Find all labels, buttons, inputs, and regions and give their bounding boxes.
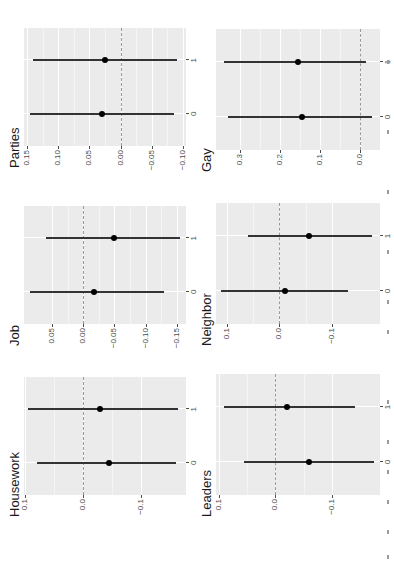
facet-title: Gay [200, 148, 214, 172]
y-tick-label: −0.05 [148, 150, 156, 180]
facet-job: Job0.050.00−0.05−0.10−0.1501 [8, 203, 200, 350]
y-tick-label: 0.3 [236, 154, 244, 184]
point-estimate-1 [102, 57, 108, 63]
minor-gridline [260, 29, 261, 150]
y-tick-mark [279, 324, 280, 327]
minor-gridline [306, 203, 307, 324]
y-tick-label: 0.0 [275, 328, 283, 358]
major-gridline [114, 206, 115, 324]
point-estimate-0 [306, 459, 312, 465]
facet-title: Neighbor [200, 293, 214, 346]
major-gridline [280, 29, 281, 150]
major-gridline [152, 28, 153, 146]
y-tick-mark [183, 146, 184, 149]
major-gridline [177, 206, 178, 324]
y-tick-label: −0.10 [142, 328, 150, 358]
point-estimate-0 [299, 114, 305, 120]
major-gridline [227, 203, 228, 324]
facet-gay: Gay0.30.20.10.001 [200, 26, 394, 176]
plot-panel [24, 377, 186, 495]
facet-title: Job [8, 325, 22, 346]
minor-gridline [105, 28, 106, 146]
caption-text-fragment [387, 330, 389, 334]
y-tick-label: 0.15 [23, 150, 31, 180]
zero-reference-line [275, 374, 276, 495]
x-tick-label: 1 [190, 233, 198, 243]
y-tick-mark [360, 150, 361, 153]
major-gridline [332, 203, 333, 324]
minor-gridline [253, 203, 254, 324]
y-tick-label: 0.0 [271, 499, 279, 529]
major-gridline [240, 29, 241, 150]
y-tick-label: −0.15 [173, 328, 181, 358]
y-tick-label: 0.05 [85, 150, 93, 180]
point-estimate-0 [99, 111, 105, 117]
caption-text-fragment [387, 440, 389, 444]
facet-inner: Neighbor0.10.0−0.101 [200, 200, 394, 350]
plot-panel [216, 29, 380, 150]
y-tick-label: 0.10 [54, 150, 62, 180]
y-tick-label: 0.0 [79, 499, 87, 529]
minor-gridline [167, 28, 168, 146]
y-tick-mark [114, 324, 115, 327]
major-gridline [58, 28, 59, 146]
confidence-interval-1 [28, 408, 178, 410]
major-gridline [183, 28, 184, 146]
caption-text-fragment [387, 250, 389, 254]
zero-reference-line [83, 206, 84, 324]
minor-gridline [43, 28, 44, 146]
facet-title: Leaders [200, 470, 214, 517]
point-estimate-0 [106, 460, 112, 466]
minor-gridline [136, 28, 137, 146]
minor-gridline [130, 206, 131, 324]
y-tick-label: 0.1 [223, 328, 231, 358]
y-tick-label: 0.05 [48, 328, 56, 358]
major-gridline [25, 377, 26, 495]
zero-reference-line [83, 377, 84, 495]
minor-gridline [304, 374, 305, 495]
facet-housework: Housework0.10.0−0.101 [8, 374, 200, 521]
major-gridline [219, 374, 220, 495]
major-gridline [320, 29, 321, 150]
minor-gridline [68, 206, 69, 324]
y-tick-label: 0.1 [316, 154, 324, 184]
y-tick-mark [121, 146, 122, 149]
caption-text-fragment [387, 400, 389, 404]
point-estimate-1 [284, 404, 290, 410]
confidence-interval-0 [30, 291, 164, 293]
major-gridline [332, 374, 333, 495]
minor-gridline [300, 29, 301, 150]
y-tick-label: −0.05 [110, 328, 118, 358]
x-tick-label: 1 [190, 404, 198, 414]
facet-inner: Job0.050.00−0.05−0.10−0.1501 [8, 203, 200, 350]
point-estimate-1 [111, 235, 117, 241]
y-tick-mark [89, 146, 90, 149]
y-tick-label: 0.1 [21, 499, 29, 529]
plot-panel [24, 206, 186, 324]
minor-gridline [54, 377, 55, 495]
y-tick-mark [177, 324, 178, 327]
x-tick-label: 0 [190, 458, 198, 468]
y-tick-label: −0.10 [179, 150, 187, 180]
y-tick-label: −0.1 [328, 328, 336, 358]
caption-text-fragment [387, 470, 389, 474]
y-tick-label: 0.2 [276, 154, 284, 184]
y-tick-label: −0.1 [137, 499, 145, 529]
y-tick-mark [227, 324, 228, 327]
y-tick-label: 0.00 [79, 328, 87, 358]
point-estimate-0 [282, 288, 288, 294]
point-estimate-1 [97, 406, 103, 412]
caption-text-fragment [387, 530, 389, 534]
x-tick-label: 1 [190, 55, 198, 65]
x-tick-label: 0 [190, 287, 198, 297]
y-tick-mark [27, 146, 28, 149]
facet-inner: Parties0.150.100.050.00−0.05−0.1001 [8, 25, 200, 172]
major-gridline [141, 377, 142, 495]
minor-gridline [340, 29, 341, 150]
minor-gridline [74, 28, 75, 146]
facet-neighbor: Neighbor0.10.0−0.101 [200, 200, 394, 350]
facet-title: Parties [8, 128, 22, 168]
y-tick-mark [58, 146, 59, 149]
y-tick-mark [152, 146, 153, 149]
y-tick-mark [83, 495, 84, 498]
